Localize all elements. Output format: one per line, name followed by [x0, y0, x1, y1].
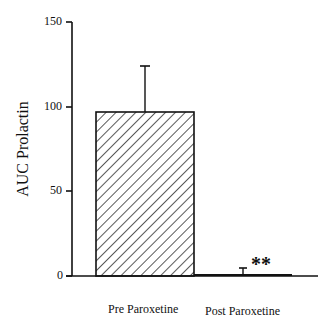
bar-post-paroxetine [194, 274, 292, 276]
significance-marker: ** [251, 253, 271, 276]
bar-chart [0, 0, 334, 330]
y-tick-150: 150 [44, 14, 62, 29]
x-label-pre: Pre Paroxetine [108, 302, 178, 317]
y-axis-label: AUC Prolactin [14, 94, 32, 204]
y-tick-50: 50 [50, 183, 62, 198]
bar-pre-paroxetine [96, 112, 194, 276]
y-tick-100: 100 [44, 99, 62, 114]
x-label-post: Post Paroxetine [205, 304, 280, 319]
y-tick-0: 0 [57, 268, 63, 283]
